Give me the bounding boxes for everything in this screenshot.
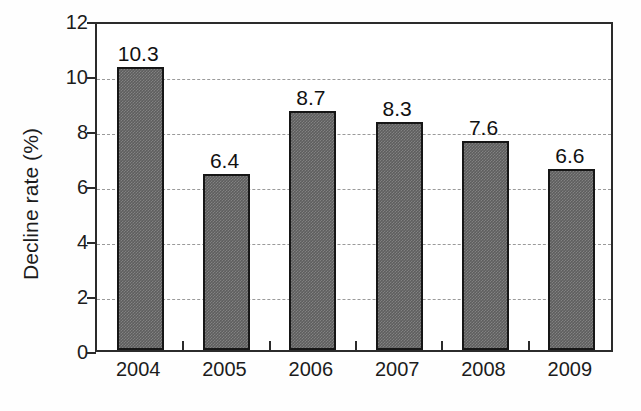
gridline <box>97 189 611 190</box>
x-axis-minor-tick <box>182 341 184 350</box>
x-axis-minor-tick <box>441 341 443 350</box>
gridline <box>97 134 611 135</box>
y-axis-tick-label: 2 <box>48 287 88 307</box>
x-axis-tick-label: 2004 <box>95 358 181 380</box>
bar-value-label: 7.6 <box>439 117 529 139</box>
x-axis-minor-tick <box>269 341 271 350</box>
bar <box>117 67 164 350</box>
y-axis-tick-label: 10 <box>48 67 88 87</box>
plot-area <box>95 22 613 352</box>
bar-value-label: 8.3 <box>352 98 442 120</box>
y-axis-title: Decline rate (%) <box>19 89 43 319</box>
x-axis-tick-label: 2009 <box>527 358 613 380</box>
bar <box>203 174 250 350</box>
x-axis-minor-tick <box>528 341 530 350</box>
y-axis-tick-label: 4 <box>48 232 88 252</box>
bar <box>376 122 423 350</box>
x-axis-tick-label: 2007 <box>354 358 440 380</box>
bar-value-label: 8.7 <box>266 87 356 109</box>
y-axis-tick-label: 0 <box>48 342 88 362</box>
bar <box>289 111 336 350</box>
bar-value-label: 10.3 <box>93 43 183 65</box>
y-axis-tick-mark <box>87 352 96 354</box>
x-axis-tick-label: 2005 <box>182 358 268 380</box>
bar-chart-figure: Decline rate (%) 024681012 10.36.48.78.3… <box>0 0 641 411</box>
bar <box>462 141 509 350</box>
gridline <box>97 79 611 80</box>
x-axis-tick-label: 2006 <box>268 358 354 380</box>
y-axis-tick-label: 8 <box>48 122 88 142</box>
y-axis-tick-label: 6 <box>48 177 88 197</box>
gridline <box>97 244 611 245</box>
bar-value-label: 6.4 <box>180 150 270 172</box>
bar-value-label: 6.6 <box>525 145 615 167</box>
y-axis-tick-label: 12 <box>48 12 88 32</box>
x-axis-minor-tick <box>355 341 357 350</box>
gridline <box>97 299 611 300</box>
x-axis-tick-label: 2008 <box>441 358 527 380</box>
bar <box>548 169 595 351</box>
y-axis-tick-labels: 024681012 <box>48 0 88 411</box>
